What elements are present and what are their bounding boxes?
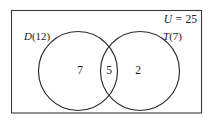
- universe-total: 25: [186, 13, 198, 25]
- region-value-left-only: 7: [77, 64, 83, 76]
- venn-diagram: U=25 D(12) T(7) 7 5 2: [0, 0, 212, 121]
- set-left-count: (12): [32, 30, 51, 43]
- region-value-right-only: 2: [135, 64, 141, 76]
- universe-equals: =: [176, 13, 183, 25]
- set-label-left: D(12): [23, 30, 51, 43]
- region-value-intersection: 5: [106, 64, 112, 76]
- universe-symbol: U: [164, 13, 173, 25]
- venn-diagram-canvas: U=25 D(12) T(7) 7 5 2: [0, 0, 212, 121]
- universe-label: U=25: [164, 13, 198, 25]
- set-right-count: (7): [169, 30, 182, 43]
- set-left-symbol: D: [23, 30, 32, 42]
- set-label-right: T(7): [163, 30, 182, 43]
